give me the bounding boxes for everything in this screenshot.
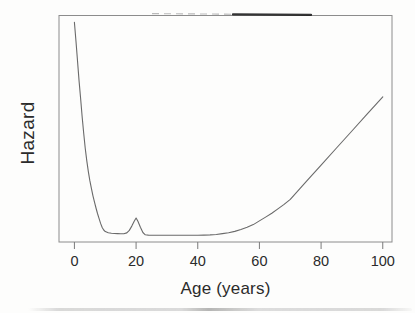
hazard-vs-age-figure: 020406080100 Hazard Age (years) xyxy=(0,0,415,313)
scan-artifact-top-dark-streak xyxy=(233,14,311,15)
y-axis-label: Hazard xyxy=(17,53,41,213)
x-tick-label: 60 xyxy=(251,253,267,269)
x-tick-label: 40 xyxy=(190,253,206,269)
x-tick-label: 20 xyxy=(128,253,144,269)
x-axis-label: Age (years) xyxy=(59,279,392,299)
x-tick-label: 80 xyxy=(313,253,329,269)
scan-artifact-bottom-text-streak xyxy=(28,308,412,311)
plot-frame xyxy=(59,16,392,243)
x-tick-label: 100 xyxy=(371,253,395,269)
hazard-curve xyxy=(74,22,382,235)
x-tick-label: 0 xyxy=(70,253,78,269)
plot-canvas: 020406080100 xyxy=(0,0,415,313)
scan-artifact-top-dashes xyxy=(152,14,232,15)
